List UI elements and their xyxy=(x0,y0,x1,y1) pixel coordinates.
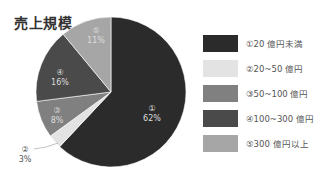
leader-line xyxy=(34,143,58,149)
slice-number-label: ④ xyxy=(56,68,63,77)
legend-label: ④100~300 億円 xyxy=(246,112,314,124)
legend-swatch xyxy=(203,60,238,77)
slice-percent-label: 11% xyxy=(87,36,105,45)
legend-item: ③50~100 億円 xyxy=(203,83,314,103)
legend-label: ①20 億円未満 xyxy=(246,37,303,49)
legend-label: ⑤300 億円以上 xyxy=(246,137,309,149)
pie-slices xyxy=(36,17,186,167)
slice-percent-label: 16% xyxy=(51,78,69,87)
slice-number-label: ① xyxy=(148,104,155,113)
slice-number-label: ⑤ xyxy=(92,26,99,35)
slice-percent-label: 8% xyxy=(51,116,64,125)
legend-item: ①20 億円未満 xyxy=(203,33,314,53)
slice-percent-label: 62% xyxy=(143,114,161,123)
legend-item: ④100~300 億円 xyxy=(203,108,314,128)
slice-number-label: ③ xyxy=(53,106,60,115)
legend-label: ②20~50 億円 xyxy=(246,62,303,74)
legend-swatch xyxy=(203,135,238,152)
legend-label: ③50~100 億円 xyxy=(246,87,308,99)
legend-item: ⑤300 億円以上 xyxy=(203,133,314,153)
legend-item: ②20~50 億円 xyxy=(203,58,314,78)
slice-percent-label: 3% xyxy=(19,155,32,164)
legend-swatch xyxy=(203,85,238,102)
legend-swatch xyxy=(203,35,238,52)
slice-number-label: ② xyxy=(21,145,28,154)
legend: ①20 億円未満 ②20~50 億円 ③50~100 億円 ④100~300 億… xyxy=(203,33,314,158)
legend-swatch xyxy=(203,110,238,127)
